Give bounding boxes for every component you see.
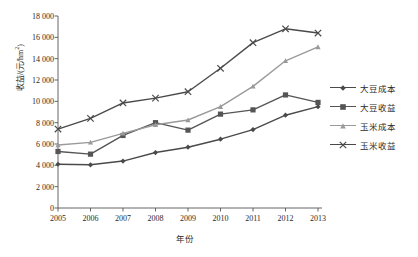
triangle-marker-icon: [330, 120, 356, 132]
legend-label: 玉米收益: [360, 139, 396, 151]
legend-item-2[interactable]: 大豆收益: [330, 97, 396, 116]
legend-label: 玉米成本: [360, 120, 396, 132]
cross-marker-icon: [330, 139, 356, 151]
legend-item-3[interactable]: 玉米成本: [330, 116, 396, 135]
diamond-marker-icon: [330, 82, 356, 94]
legend-label: 大豆收益: [360, 101, 396, 113]
square-marker-icon: [330, 101, 356, 113]
legend-item-1[interactable]: 大豆成本: [330, 78, 396, 97]
chart-container: 收益/(元/hm2) 02 0004 0006 0008 00010 00012…: [0, 0, 418, 257]
x-axis-title: 年份: [60, 232, 310, 244]
legend-item-4[interactable]: 玉米收益: [330, 135, 396, 154]
chart-legend: 大豆成本大豆收益玉米成本玉米收益: [330, 78, 396, 154]
legend-label: 大豆成本: [360, 82, 396, 94]
